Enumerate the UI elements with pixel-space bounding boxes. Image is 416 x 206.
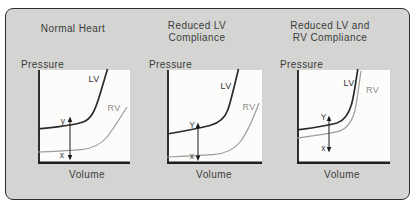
lv-curve-label: LV [89,74,100,84]
title-line: Compliance [137,32,257,44]
arrow-top-label: Y [189,120,195,130]
rv-curve [38,107,127,152]
volume-axis-label: Volume [37,169,137,181]
lv-curve [167,69,239,134]
arrow-up-head [68,117,73,123]
title-line: Reduced LV and [270,20,390,32]
arrow-bottom-label: x [321,143,326,153]
arrow-up-head [196,123,201,129]
panel-title-normal-heart: Normal Heart [13,23,133,35]
arrow-bottom-label: x [60,150,65,160]
rv-curve-label: RV [366,85,379,95]
pv-plot-reduced-lv: LV RV Y x [167,70,262,164]
textbook-figure: { "frame": { "background": "#d4d5d2", "b… [0,0,416,206]
title-line: Reduced LV [137,20,257,32]
title-line: RV Compliance [270,32,390,44]
rv-curve-label: RV [108,103,121,113]
pv-plot-normal-heart: LV RV y x [38,70,130,164]
lv-curve-label: LV [221,81,232,91]
panel-title-reduced-lv-rv: Reduced LV and RV Compliance [270,20,390,44]
title-line: Normal Heart [13,23,133,35]
volume-axis-label: Volume [164,169,264,181]
arrow-down-head [68,155,73,161]
arrow-down-head [196,156,201,162]
panel-title-reduced-lv: Reduced LV Compliance [137,20,257,44]
rv-curve-label: RV [243,102,256,112]
lv-curve-label: LV [344,78,355,88]
volume-axis-label: Volume [292,169,392,181]
arrow-top-label: y [61,116,66,126]
arrow-top-label: Y [321,112,327,122]
pv-plot-reduced-lv-rv: LV RV Y x [297,70,390,164]
arrow-down-head [327,147,332,153]
arrow-up-head [327,116,332,122]
pressure-gap-arrow [68,117,73,161]
